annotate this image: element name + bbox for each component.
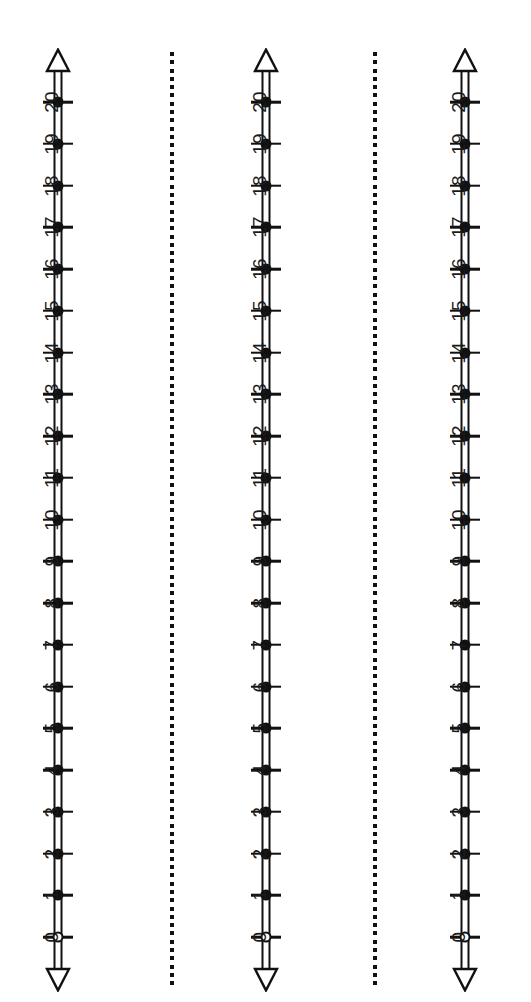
tick-8[interactable]: 8: [236, 591, 296, 615]
separator-dot: [170, 658, 174, 662]
tick-label: 7: [271, 634, 293, 645]
separator-dot: [170, 840, 174, 844]
tick-18[interactable]: 18: [28, 174, 88, 198]
tick-9[interactable]: 9: [28, 549, 88, 573]
separator-dot: [170, 467, 174, 471]
tick-9[interactable]: 9: [236, 549, 296, 573]
tick-13[interactable]: 13: [236, 382, 296, 406]
tick-label-text: 0: [41, 932, 63, 943]
tick-label-text: 19: [448, 133, 470, 155]
tick-label: 7: [470, 634, 492, 645]
tick-0[interactable]: 0: [435, 925, 495, 949]
tick-9[interactable]: 9: [435, 549, 495, 573]
tick-18[interactable]: 18: [236, 174, 296, 198]
tick-11[interactable]: 11: [435, 466, 495, 490]
tick-10[interactable]: 10: [236, 508, 296, 532]
separator-dot: [373, 367, 377, 371]
tick-19[interactable]: 19: [435, 132, 495, 156]
tick-6[interactable]: 6: [28, 675, 88, 699]
tick-0[interactable]: 0: [28, 925, 88, 949]
tick-16[interactable]: 16: [435, 257, 495, 281]
tick-13[interactable]: 13: [28, 382, 88, 406]
tick-5[interactable]: 5: [28, 716, 88, 740]
separator-dot: [170, 459, 174, 463]
tick-2[interactable]: 2: [236, 842, 296, 866]
tick-1[interactable]: 1: [236, 883, 296, 907]
separator-dot: [373, 309, 377, 313]
tick-10[interactable]: 10: [28, 508, 88, 532]
tick-20[interactable]: 20: [236, 90, 296, 114]
separator-dot: [170, 857, 174, 861]
tick-label: 2: [470, 843, 492, 854]
separator-dot: [170, 118, 174, 122]
separator-dot: [170, 392, 174, 396]
separator-dot: [373, 259, 377, 263]
tick-2[interactable]: 2: [435, 842, 495, 866]
tick-19[interactable]: 19: [28, 132, 88, 156]
separator-2: [373, 52, 377, 990]
tick-5[interactable]: 5: [236, 716, 296, 740]
tick-3[interactable]: 3: [236, 800, 296, 824]
tick-15[interactable]: 15: [28, 299, 88, 323]
tick-8[interactable]: 8: [435, 591, 495, 615]
arrow-up-icon: [452, 48, 478, 74]
tick-label-text: 0: [249, 932, 271, 943]
separator-dot: [373, 185, 377, 189]
tick-4[interactable]: 4: [236, 758, 296, 782]
tick-14[interactable]: 14: [28, 341, 88, 365]
tick-18[interactable]: 18: [435, 174, 495, 198]
separator-dot: [170, 716, 174, 720]
tick-16[interactable]: 16: [28, 257, 88, 281]
tick-label-text: 6: [249, 681, 271, 692]
tick-16[interactable]: 16: [236, 257, 296, 281]
tick-label: 20: [470, 80, 492, 102]
tick-10[interactable]: 10: [435, 508, 495, 532]
tick-label: 19: [470, 122, 492, 144]
tick-14[interactable]: 14: [435, 341, 495, 365]
tick-12[interactable]: 12: [435, 424, 495, 448]
tick-20[interactable]: 20: [28, 90, 88, 114]
tick-2[interactable]: 2: [28, 842, 88, 866]
tick-4[interactable]: 4: [28, 758, 88, 782]
separator-dot: [373, 600, 377, 604]
tick-13[interactable]: 13: [435, 382, 495, 406]
tick-17[interactable]: 17: [435, 215, 495, 239]
tick-8[interactable]: 8: [28, 591, 88, 615]
tick-15[interactable]: 15: [435, 299, 495, 323]
tick-1[interactable]: 1: [435, 883, 495, 907]
tick-19[interactable]: 19: [236, 132, 296, 156]
tick-1[interactable]: 1: [28, 883, 88, 907]
tick-0[interactable]: 0: [236, 925, 296, 949]
separator-dot: [170, 790, 174, 794]
tick-7[interactable]: 7: [28, 633, 88, 657]
separator-dot: [373, 201, 377, 205]
tick-12[interactable]: 12: [28, 424, 88, 448]
tick-label-text: 19: [41, 133, 63, 155]
tick-4[interactable]: 4: [435, 758, 495, 782]
tick-7[interactable]: 7: [236, 633, 296, 657]
tick-20[interactable]: 20: [435, 90, 495, 114]
tick-3[interactable]: 3: [435, 800, 495, 824]
separator-dot: [373, 857, 377, 861]
separator-dot: [170, 359, 174, 363]
tick-label: 14: [63, 331, 85, 353]
separator-dot: [373, 782, 377, 786]
tick-11[interactable]: 11: [28, 466, 88, 490]
tick-3[interactable]: 3: [28, 800, 88, 824]
tick-12[interactable]: 12: [236, 424, 296, 448]
separator-dot: [170, 309, 174, 313]
tick-14[interactable]: 14: [236, 341, 296, 365]
separator-dot: [373, 525, 377, 529]
tick-6[interactable]: 6: [236, 675, 296, 699]
separator-dot: [170, 583, 174, 587]
tick-5[interactable]: 5: [435, 716, 495, 740]
tick-6[interactable]: 6: [435, 675, 495, 699]
separator-dot: [170, 500, 174, 504]
tick-17[interactable]: 17: [28, 215, 88, 239]
tick-7[interactable]: 7: [435, 633, 495, 657]
tick-17[interactable]: 17: [236, 215, 296, 239]
tick-11[interactable]: 11: [236, 466, 296, 490]
separator-dot: [373, 508, 377, 512]
separator-dot: [373, 351, 377, 355]
tick-15[interactable]: 15: [236, 299, 296, 323]
